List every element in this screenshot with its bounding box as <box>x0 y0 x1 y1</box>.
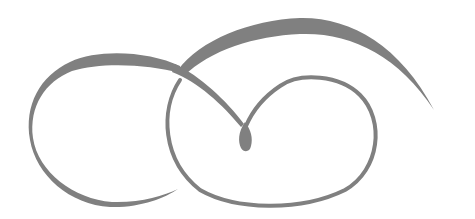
right-loop-stroke <box>167 77 375 205</box>
swirl-flourish-graphic <box>0 0 475 219</box>
flourish-canvas <box>0 0 475 219</box>
left-loop-stroke <box>29 53 180 207</box>
